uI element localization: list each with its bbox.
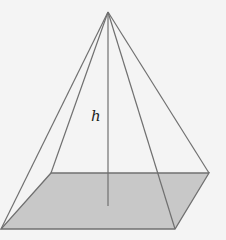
pyramid-base <box>1 173 209 229</box>
pyramid-diagram: h <box>0 0 226 240</box>
edge-apex-back-left <box>51 12 108 173</box>
height-label: h <box>91 107 101 125</box>
edge-apex-back-right <box>108 12 209 173</box>
